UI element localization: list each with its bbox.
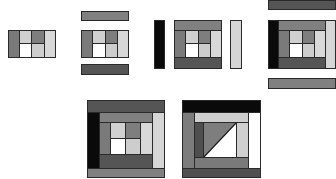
strip-right-light — [117, 30, 129, 58]
strip-bottom-dark — [81, 64, 129, 75]
strip-right-verylight — [325, 20, 336, 69]
center-bottom-left — [92, 43, 106, 58]
center-top-right — [125, 122, 141, 139]
center-top-left — [185, 30, 199, 44]
strip-top-dark — [268, 0, 336, 10]
strip-right-verylight — [230, 20, 242, 69]
strip-right-verylight — [152, 112, 165, 169]
strip-bottom-mid — [87, 168, 165, 178]
strip-right-white — [248, 112, 261, 169]
strip-bottom-dark — [99, 154, 153, 169]
strip-bottom-dark — [174, 57, 222, 69]
strip-bottom-mid — [268, 78, 336, 89]
center-bottom-left — [185, 43, 199, 58]
diagonal-triangle — [204, 123, 236, 157]
center-bottom-right — [31, 43, 45, 58]
center-bottom-left — [289, 43, 303, 58]
center-top-right — [31, 30, 45, 44]
diagonal-square — [203, 122, 237, 158]
strip-right-light — [44, 30, 56, 58]
center-top-left — [92, 30, 106, 44]
strip-right-light — [210, 30, 222, 58]
center-top-left — [110, 122, 126, 139]
strip-bottom-dark — [182, 168, 261, 178]
center-bottom-right — [125, 138, 141, 155]
center-bottom-left — [110, 138, 126, 155]
center-top-left — [289, 30, 303, 44]
strip-left-black — [154, 20, 165, 69]
strip-bottom-dark — [278, 57, 326, 69]
strip-top-mid — [81, 11, 129, 21]
